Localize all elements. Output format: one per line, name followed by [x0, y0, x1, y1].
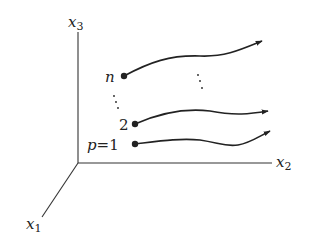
x1-axis	[42, 163, 78, 217]
x2-axis-label: x2	[276, 153, 291, 173]
particle-2-point	[132, 121, 138, 127]
particle-1-point	[132, 141, 138, 147]
particle-1-label: p=1	[87, 136, 119, 154]
ellipsis-left-icon	[113, 95, 119, 109]
x3-axis-label: x3	[68, 13, 83, 33]
particle-2-label: 2	[119, 116, 129, 134]
x1-axis-label: x1	[26, 215, 41, 235]
particle-n-label: n	[105, 68, 115, 86]
ellipsis-right-icon	[197, 74, 203, 89]
trajectory-2	[135, 110, 268, 124]
particle-n-point	[121, 73, 127, 79]
trajectory-n	[124, 41, 262, 76]
trajectory-diagram: x3 x2 x1 n 2 p=1	[0, 0, 316, 251]
trajectory-1	[135, 131, 270, 146]
